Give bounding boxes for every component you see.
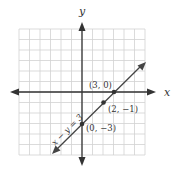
x-axis-right-arrow-icon bbox=[147, 89, 156, 96]
point-label-0-neg3: (0, −3) bbox=[86, 123, 116, 133]
point-label-3-0: (3, 0) bbox=[89, 80, 112, 90]
point-2-neg1 bbox=[101, 100, 106, 105]
point-label-2-neg1: (2, −1) bbox=[108, 104, 138, 114]
coordinate-graph: x y (3, 0) (2, −1) (0, −3) x − y = 3 bbox=[0, 0, 179, 173]
point-3-0 bbox=[112, 90, 117, 95]
y-axis-up-arrow-icon bbox=[79, 22, 86, 31]
x-axis-left-arrow-icon bbox=[10, 89, 19, 96]
y-axis-down-arrow-icon bbox=[79, 157, 86, 166]
y-axis-label: y bbox=[78, 5, 86, 18]
equation-label: x − y = 3 bbox=[49, 112, 84, 147]
x-axis-label: x bbox=[164, 86, 171, 99]
